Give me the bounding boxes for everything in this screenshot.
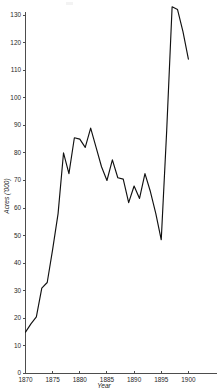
y-tick-label: 50 — [14, 232, 22, 239]
y-tick-label: 20 — [14, 314, 22, 321]
x-tick-label: 1880 — [73, 376, 88, 383]
y-tick-label: 120 — [10, 39, 21, 46]
y-tick-label: 40 — [14, 259, 22, 266]
y-tick-label: 60 — [14, 204, 22, 211]
x-tick-label: 1900 — [181, 376, 196, 383]
x-axis-title: Year — [97, 382, 111, 389]
y-tick-label: 80 — [14, 149, 22, 156]
y-tick-label: 100 — [10, 94, 21, 101]
y-axis-title: Acres ('000) — [3, 178, 11, 214]
y-tick-label: 130 — [10, 11, 21, 18]
x-tick-label: 1870 — [18, 376, 33, 383]
y-tick-label: 90 — [14, 121, 22, 128]
chart-canvas: 0102030405060708090100110120130 Acres ('… — [0, 0, 219, 392]
chart-background — [0, 0, 219, 392]
x-tick-label: 1875 — [46, 376, 61, 383]
y-tick-label: 110 — [11, 66, 22, 73]
line-chart: 0102030405060708090100110120130 Acres ('… — [0, 0, 219, 392]
x-tick-label: 1890 — [127, 376, 142, 383]
scan-artifact — [66, 2, 73, 5]
y-tick-label: 30 — [14, 287, 22, 294]
y-tick-label: 10 — [14, 342, 22, 349]
y-tick-label: 70 — [14, 176, 22, 183]
x-tick-label: 1895 — [154, 376, 169, 383]
